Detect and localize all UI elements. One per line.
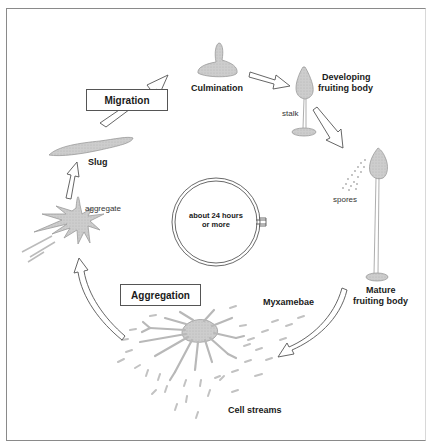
myxamebae-label: Myxamebae xyxy=(263,298,314,308)
arrow-culmination-to-developing xyxy=(249,72,290,89)
developing-fruiting-body-label-2: fruiting body xyxy=(318,84,373,94)
mature-fruiting-body-label-1: Mature xyxy=(366,286,396,296)
stalk-label: stalk xyxy=(282,110,298,119)
spores-label: spores xyxy=(333,196,357,205)
spores-dots xyxy=(342,159,366,191)
mature-fruiting-body-label-2: fruiting body xyxy=(353,297,408,307)
slug-icon xyxy=(49,137,133,155)
culmination-icon xyxy=(198,43,237,77)
clock-line-2: or more xyxy=(176,220,256,229)
developing-fruiting-body-label-1: Developing xyxy=(322,73,371,83)
aggregation-mass-icon xyxy=(140,310,244,380)
clock-line-1: about 24 hours xyxy=(176,211,256,220)
cell-streams-label: Cell streams xyxy=(228,406,282,416)
arrow-aggregate-to-slug xyxy=(66,162,79,199)
aggregation-stage-box: Aggregation xyxy=(120,284,201,306)
clock-duration-label: about 24 hours or more xyxy=(176,211,256,230)
aggregate-label: aggregate xyxy=(85,205,121,214)
slug-label: Slug xyxy=(88,158,108,168)
mature-fruiting-body-icon xyxy=(366,148,388,281)
culmination-label: Culmination xyxy=(191,84,243,94)
arrow-aggregation-to-aggregate xyxy=(74,258,125,340)
developing-fruiting-body-icon xyxy=(292,67,316,136)
arrow-developing-to-mature xyxy=(313,107,343,148)
migration-stage-box: Migration xyxy=(86,89,168,111)
